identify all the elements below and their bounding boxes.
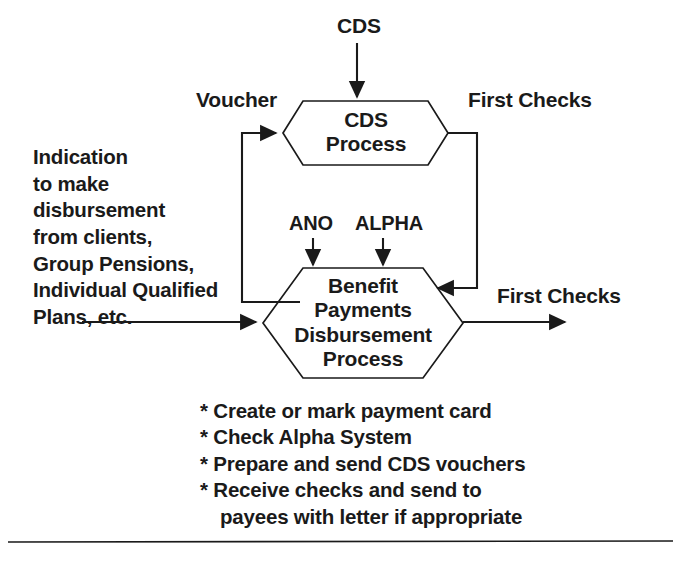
flow-label-voucher: Voucher bbox=[196, 88, 277, 113]
indication-note-line-3: from clients, bbox=[33, 224, 218, 251]
flow-label-alpha: ALPHA bbox=[355, 212, 423, 236]
indication-note-line-4: Group Pensions, bbox=[33, 251, 218, 278]
activity-item-continuation: payees with letter if appropriate bbox=[200, 504, 525, 530]
indication-note-line-2: disbursement bbox=[33, 197, 218, 224]
indication-note-line-5: Individual Qualified bbox=[33, 277, 218, 304]
indication-note-line-6: Plans, etc. bbox=[33, 304, 218, 331]
benefit-process-line-3: Process bbox=[276, 347, 450, 371]
indication-note-line-0: Indication bbox=[33, 144, 218, 171]
benefit-process-line-2: Disbursement bbox=[276, 323, 450, 347]
indication-input-note: Indicationto makedisbursementfrom client… bbox=[33, 144, 218, 330]
cds-process-line-1: Process bbox=[299, 132, 433, 156]
flow-label-cds-input: CDS bbox=[337, 14, 381, 39]
cds-process-label: CDSProcess bbox=[299, 108, 433, 157]
benefit-process-label: BenefitPaymentsDisbursementProcess bbox=[276, 274, 450, 371]
process-flow-diagram: CDS Voucher First Checks ANO ALPHA First… bbox=[0, 0, 682, 562]
activity-item: * Receive checks and send to bbox=[200, 477, 525, 503]
cds-process-line-0: CDS bbox=[299, 108, 433, 132]
first-checks-loop-arrow bbox=[438, 133, 477, 288]
flow-label-ano: ANO bbox=[289, 212, 333, 236]
activities-list: * Create or mark payment card* Check Alp… bbox=[200, 398, 525, 530]
activity-item: * Prepare and send CDS vouchers bbox=[200, 451, 525, 477]
benefit-process-line-0: Benefit bbox=[276, 274, 450, 298]
activity-item: * Create or mark payment card bbox=[200, 398, 525, 424]
activity-item: * Check Alpha System bbox=[200, 424, 525, 450]
bottom-divider-rule bbox=[8, 541, 673, 542]
indication-note-line-1: to make bbox=[33, 171, 218, 198]
flow-label-first-checks-right: First Checks bbox=[497, 284, 621, 309]
flow-label-first-checks-top: First Checks bbox=[468, 88, 592, 113]
benefit-process-line-1: Payments bbox=[276, 298, 450, 322]
